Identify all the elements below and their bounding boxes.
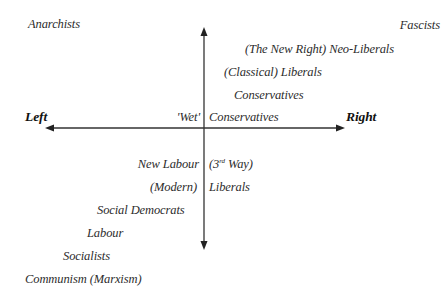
label-modern: (Modern) — [150, 180, 197, 194]
label-anarchists: Anarchists — [28, 17, 80, 31]
axis-label-left: Left — [25, 110, 47, 124]
down-arrow-icon — [201, 241, 208, 250]
axis-label-right: Right — [346, 110, 376, 124]
left-arrow-icon — [45, 125, 54, 132]
label-labour: Labour — [87, 226, 123, 240]
right-arrow-icon — [336, 125, 345, 132]
up-arrow-icon — [201, 27, 208, 36]
label-wet: 'Wet' — [177, 110, 200, 124]
label-social-democrats: Social Democrats — [97, 203, 185, 217]
label-modern-liberals: Liberals — [209, 180, 250, 194]
vertical-axis — [201, 27, 208, 250]
label-wet-conservatives: Conservatives — [209, 110, 279, 124]
label-fascists: Fascists — [400, 18, 440, 32]
political-spectrum-diagram: Anarchists Fascists (The New Right) Neo-… — [0, 0, 447, 301]
label-neo-liberals: (The New Right) Neo-Liberals — [245, 42, 394, 56]
horizontal-axis — [45, 125, 345, 132]
label-classical-liberals: (Classical) Liberals — [224, 65, 322, 79]
label-socialists: Socialists — [63, 249, 110, 263]
label-new-labour: New Labour — [138, 157, 199, 171]
label-communism: Communism (Marxism) — [25, 272, 142, 286]
label-conservatives: Conservatives — [234, 88, 304, 102]
label-third-way: (3rd Way) — [209, 157, 253, 171]
